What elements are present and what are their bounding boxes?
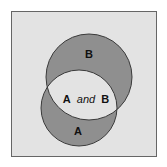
intersection-label-and: and <box>77 93 96 105</box>
venn-diagram: B A A and B <box>0 0 167 167</box>
set-b-label: B <box>85 48 93 60</box>
intersection-label-b: B <box>101 93 109 105</box>
intersection-label-a: A <box>63 93 71 105</box>
set-a-label: A <box>74 125 82 137</box>
